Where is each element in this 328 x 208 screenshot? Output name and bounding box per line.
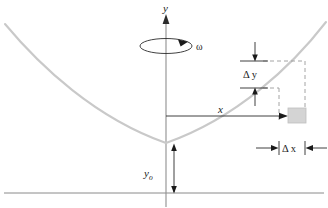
delta-y-label: Δ y	[243, 69, 258, 80]
fluid-element-block	[288, 108, 306, 123]
delta-x-label: Δ x	[282, 143, 297, 154]
vertex-height-label-subscript: o	[149, 173, 153, 182]
y-axis-label: y	[162, 2, 168, 14]
angular-velocity-label: ω	[196, 41, 203, 52]
figure-root: y ω Δ y x	[0, 0, 328, 208]
x-distance-arrowhead	[279, 113, 288, 119]
delta-y-upper-arrowhead	[252, 55, 258, 62]
y-axis-arrowhead	[163, 14, 170, 24]
vertex-height-lower-arrowhead	[171, 186, 177, 194]
x-distance-label: x	[217, 103, 223, 115]
delta-x-left-arrowhead	[271, 145, 279, 151]
vertex-height-label: yo	[143, 167, 153, 182]
parabola-diagram: y ω Δ y x	[0, 0, 328, 208]
vertex-height-upper-arrowhead	[171, 144, 177, 152]
delta-x-right-arrowhead	[306, 145, 314, 151]
